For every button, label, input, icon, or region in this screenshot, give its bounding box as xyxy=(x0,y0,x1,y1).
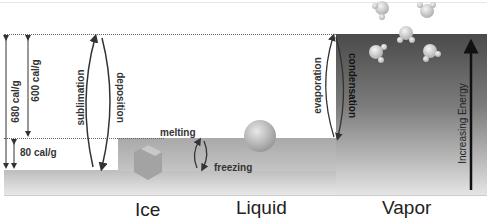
sublimation-arrow-icon xyxy=(86,38,95,167)
water-molecule-icon xyxy=(397,26,415,43)
evaporation-arrow-icon xyxy=(326,37,334,137)
liquid-droplet-icon xyxy=(244,120,276,152)
condensation-label: condensation xyxy=(347,46,358,126)
water-molecule-icon xyxy=(372,1,389,20)
water-molecule-icon xyxy=(369,44,387,63)
melting-label: melting xyxy=(160,127,196,138)
water-molecule-icon xyxy=(423,44,441,62)
evaporation-label: evaporation xyxy=(312,46,323,126)
sublimation-label: sublimation xyxy=(75,63,86,133)
680-cal-label: 680 cal/g xyxy=(10,72,21,132)
phase-label-liquid: Liquid xyxy=(236,197,287,219)
freezing-arrow-icon xyxy=(203,141,207,168)
arrows-layer xyxy=(0,0,487,220)
phase-label-vapor: Vapor xyxy=(382,197,431,219)
water-molecule-icon xyxy=(417,2,436,18)
600-cal-label: 600 cal/g xyxy=(30,51,41,111)
freezing-label: freezing xyxy=(214,162,252,173)
condensation-arrow-icon xyxy=(336,37,344,137)
deposition-arrow-icon xyxy=(102,38,110,167)
increasing-energy-label: Increasing Energy xyxy=(457,74,468,174)
melting-arrow-icon xyxy=(194,141,199,168)
deposition-label: deposition xyxy=(115,63,126,133)
phase-label-ice: Ice xyxy=(135,199,160,220)
ice-cube-icon xyxy=(134,145,162,180)
80-cal-label: 80 cal/g xyxy=(20,147,57,158)
